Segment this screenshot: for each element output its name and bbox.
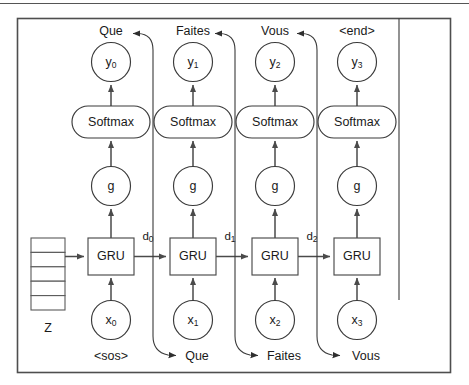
diagram-canvas: Z Que y0 Softmax g GRU	[0, 0, 469, 385]
decoder-diagram-figure: Z Que y0 Softmax g GRU	[0, 0, 469, 385]
timestep-column-1: Faites y1 Softmax g GRU x1 Que d1	[154, 24, 248, 363]
softmax-label-3: Softmax	[334, 115, 381, 129]
output-word-1: Faites	[176, 24, 210, 38]
latent-cell	[31, 296, 65, 310]
latent-cell	[31, 281, 65, 295]
figure-border	[18, 19, 451, 373]
output-word-0: Que	[99, 24, 123, 38]
timestep-column-2: Vous y2 Softmax g GRU x2 Faites d2	[236, 24, 330, 363]
output-word-2: Vous	[261, 24, 289, 38]
softmax-label-1: Softmax	[170, 115, 217, 129]
latent-vector-z: Z	[31, 238, 65, 335]
timestep-column-0: Que y0 Softmax g GRU x0	[72, 24, 166, 363]
feedback-path-2-bottom	[317, 300, 340, 356]
latent-cell	[31, 252, 65, 266]
g-node-label-0: g	[108, 179, 115, 193]
state-label-1: d1	[224, 230, 235, 244]
feedback-path-1-bottom	[235, 300, 258, 356]
feedback-path-0-bottom	[153, 300, 176, 356]
gru-label-2: GRU	[261, 249, 289, 263]
softmax-label-2: Softmax	[252, 115, 299, 129]
output-word-3: <end>	[339, 24, 374, 38]
state-label-2: d2	[306, 230, 317, 244]
input-word-1: Que	[185, 349, 209, 363]
latent-vector-label: Z	[44, 321, 52, 335]
feedback-path-0-top	[133, 34, 153, 301]
g-node-label-2: g	[272, 179, 279, 193]
feedback-path-2-top	[297, 34, 317, 301]
input-word-2: Faites	[267, 349, 301, 363]
input-word-3: Vous	[352, 349, 380, 363]
softmax-label-0: Softmax	[88, 115, 135, 129]
gru-label-3: GRU	[343, 249, 371, 263]
latent-cell	[31, 267, 65, 281]
feedback-path-1-top	[215, 34, 235, 301]
timestep-column-3: <end> y3 Softmax g GRU x3 Vous	[318, 24, 396, 363]
state-label-0: d0	[142, 230, 153, 244]
gru-label-1: GRU	[179, 249, 207, 263]
latent-cell	[31, 238, 65, 252]
gru-label-0: GRU	[97, 249, 125, 263]
g-node-label-1: g	[190, 179, 197, 193]
g-node-label-3: g	[354, 179, 361, 193]
input-word-0: <sos>	[94, 349, 128, 363]
